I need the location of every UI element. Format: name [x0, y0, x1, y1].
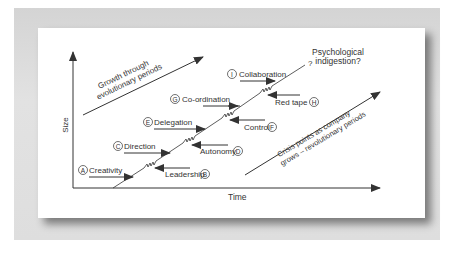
phase-c-direction: C Direction: [114, 142, 171, 154]
phase-b-leadership: Leadership B: [155, 168, 210, 179]
phase-d-autonomy: Autonomy D: [192, 145, 243, 156]
svg-text:Autonomy: Autonomy: [200, 147, 236, 156]
y-axis-label: Size: [61, 117, 70, 133]
question-mark: ?: [308, 59, 313, 68]
svg-text:B: B: [203, 171, 207, 178]
svg-text:D: D: [236, 148, 241, 155]
svg-text:Collaboration: Collaboration: [239, 70, 286, 79]
growth-diagram: Size Time Growth through evolutionary pe…: [0, 0, 465, 253]
svg-text:E: E: [146, 119, 151, 126]
svg-text:Direction: Direction: [124, 142, 156, 151]
svg-text:Red tape: Red tape: [275, 98, 308, 107]
phase-e-delegation: E Delegation: [144, 118, 206, 130]
svg-text:Creativity: Creativity: [89, 166, 122, 175]
svg-text:G: G: [172, 96, 177, 103]
phase-h-red-tape: Red tape H: [268, 95, 319, 107]
phase-a-creativity: A Creativity: [79, 166, 134, 178]
svg-text:Crisis points as company: Crisis points as company: [276, 108, 352, 159]
phase-i-collaboration: I Collaboration: [228, 70, 287, 82]
svg-text:Leadership: Leadership: [165, 170, 205, 179]
svg-text:C: C: [116, 143, 121, 150]
svg-text:F: F: [270, 124, 274, 131]
svg-text:Co-ordination: Co-ordination: [182, 95, 230, 104]
psych-label-2: indigestion?: [315, 56, 361, 66]
svg-text:A: A: [81, 167, 86, 174]
x-axis-label: Time: [228, 192, 247, 202]
svg-text:Control: Control: [244, 123, 270, 132]
svg-text:grows – revolutionary periods: grows – revolutionary periods: [279, 109, 368, 167]
svg-text:I: I: [231, 71, 233, 78]
phase-f-control: Control F: [230, 120, 277, 132]
svg-text:Delegation: Delegation: [154, 118, 192, 127]
crisis-arrow-label: Crisis points as company grows – revolut…: [274, 102, 367, 168]
svg-text:H: H: [312, 99, 317, 106]
phase-g-coordination: G Co-ordination: [171, 95, 241, 107]
growth-arrow-label: Growth through evolutionary periods: [91, 54, 163, 102]
